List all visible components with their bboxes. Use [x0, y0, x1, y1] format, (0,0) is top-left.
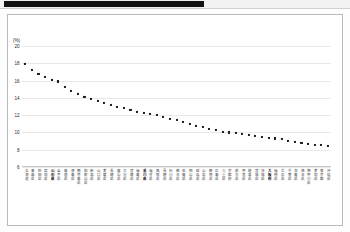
y-axis-tick-label: 16: [14, 78, 19, 83]
gridline: [22, 132, 331, 133]
data-point: [261, 136, 263, 138]
data-point: [281, 138, 283, 140]
gridline: [22, 150, 331, 151]
plot-area: 20181614121086: [22, 46, 331, 167]
x-axis-tick-label: 岩手県: [56, 169, 60, 181]
y-axis-tick-label: 10: [14, 130, 19, 135]
data-point: [149, 113, 151, 115]
data-point: [307, 143, 309, 145]
x-axis-tick-label: 高知県: [43, 169, 47, 181]
data-point: [248, 134, 250, 136]
x-axis-tick-label: 大分県: [122, 169, 126, 181]
x-axis-tick-label: 宮崎県: [129, 169, 133, 181]
data-point: [254, 135, 256, 137]
x-axis-tick-label: 佐賀県: [181, 169, 185, 181]
header-black-band: [4, 1, 204, 7]
x-axis-tick-label: 山形県: [50, 169, 54, 181]
x-axis-tick-label: 岐阜県: [247, 169, 251, 181]
x-axis-tick-label: 神奈川県: [306, 169, 310, 185]
data-point: [123, 107, 125, 109]
x-axis-tick-label: 山梨県: [201, 169, 205, 181]
data-point: [182, 121, 184, 123]
header-bar: [0, 0, 350, 9]
x-axis-tick-label: 兵庫県: [280, 169, 284, 181]
data-point: [31, 69, 33, 71]
data-point: [215, 129, 217, 131]
x-axis-tick-label: 広島県: [214, 169, 218, 181]
x-axis-tick-label: 石川県: [168, 169, 172, 181]
x-axis-tick-label: 愛知県: [313, 169, 317, 181]
data-point: [51, 79, 53, 81]
data-point: [83, 96, 85, 98]
data-point: [44, 76, 46, 78]
x-axis-tick-label: 香川県: [142, 169, 146, 181]
x-axis-tick-label: 茨城県: [260, 169, 264, 181]
y-axis-tick-label: 20: [14, 44, 19, 49]
data-point: [287, 140, 289, 142]
data-point: [37, 73, 39, 75]
chart-page: (%) 20181614121086 北海道青森県秋田県高知県山形県岩手県島根県…: [0, 0, 350, 232]
x-axis-tick-label: 沖縄県: [326, 169, 330, 181]
data-point: [175, 119, 177, 121]
data-point: [162, 116, 164, 118]
x-axis-tick-label: 静岡県: [208, 169, 212, 181]
x-axis-line: [22, 166, 331, 167]
x-axis-tick-label: 長崎県: [109, 169, 113, 181]
data-point: [143, 112, 145, 114]
x-axis-tick-label: 鹿児島県: [76, 169, 80, 185]
data-point: [202, 126, 204, 128]
y-axis-tick-label: 12: [14, 113, 19, 118]
data-point: [116, 105, 118, 107]
x-axis-tick-label: 大阪府: [267, 169, 271, 181]
x-axis-tick-label: 鳥取県: [155, 169, 159, 181]
data-point: [64, 86, 66, 88]
data-point: [156, 114, 158, 116]
x-axis-tick-label: 熊本県: [175, 169, 179, 181]
x-axis-tick-label: 栃木県: [234, 169, 238, 181]
data-point: [110, 104, 112, 106]
x-axis-tick-label: 徳島県: [70, 169, 74, 181]
x-axis-tick-label: 岡山県: [188, 169, 192, 181]
data-point: [195, 124, 197, 126]
x-axis-tick-label: 千葉県: [286, 169, 290, 181]
data-point: [103, 102, 105, 104]
data-point: [169, 118, 171, 120]
x-axis-tick-label: 和歌山県: [83, 169, 87, 185]
gridline: [22, 167, 331, 168]
gridline: [22, 63, 331, 64]
y-axis-tick-label: 8: [17, 147, 20, 152]
gridline: [22, 46, 331, 47]
data-point: [235, 132, 237, 134]
x-axis-tick-label: 東京都: [319, 169, 323, 181]
gridline: [22, 115, 331, 116]
x-axis-tick-label: 愛媛県: [102, 169, 106, 181]
data-point: [57, 80, 59, 82]
x-axis-tick-label: 埼玉県: [300, 169, 304, 181]
header-divider: [0, 8, 350, 9]
x-axis-tick-label: 長野県: [162, 169, 166, 181]
x-axis-tick-label: 福井県: [148, 169, 152, 181]
data-point: [24, 63, 26, 65]
data-point: [129, 109, 131, 111]
x-axis-tick-label: 福島県: [135, 169, 139, 181]
x-axis-tick-label: 滋賀県: [293, 169, 297, 181]
x-axis-tick-label: 宮城県: [254, 169, 258, 181]
data-point: [267, 137, 269, 139]
data-point: [97, 100, 99, 102]
data-point: [208, 128, 210, 130]
data-point: [314, 143, 316, 145]
x-axis-tick-label: 新潟県: [89, 169, 93, 181]
x-axis-tick-label: 京都府: [227, 169, 231, 181]
data-point: [300, 142, 302, 144]
data-point: [221, 131, 223, 133]
x-axis-labels: 北海道青森県秋田県高知県山形県岩手県島根県徳島県鹿児島県和歌山県新潟県山口県愛媛…: [22, 169, 331, 217]
y-axis-tick-label: 6: [17, 165, 20, 170]
x-axis-tick-label: 奈良県: [240, 169, 244, 181]
data-point: [320, 144, 322, 146]
x-axis-tick-label: 三重県: [221, 169, 225, 181]
x-axis-tick-label: 青森県: [30, 169, 34, 181]
data-point: [274, 137, 276, 139]
x-axis-tick-label: 北海道: [23, 169, 27, 181]
x-axis-tick-label: 島根県: [63, 169, 67, 181]
data-point: [241, 133, 243, 135]
